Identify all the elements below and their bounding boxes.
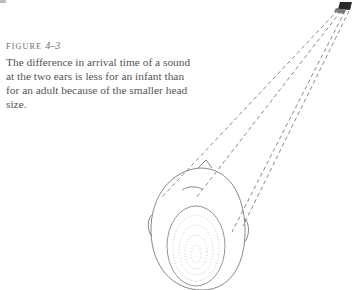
hair-outline	[167, 206, 225, 286]
path-right-ear-outer	[232, 11, 345, 232]
path-right-ear-inner	[243, 11, 349, 226]
path-left-ear-outer	[162, 10, 338, 197]
sound-path-lines	[162, 10, 349, 232]
sound-source-icon	[334, 2, 352, 14]
path-left-ear-inner	[196, 11, 341, 198]
head-sound-illustration	[0, 0, 356, 290]
brow-line	[182, 187, 202, 190]
hair-texture	[173, 215, 219, 281]
nose-outline	[198, 160, 212, 168]
infant-head-drawing	[148, 160, 248, 290]
head-outline	[151, 168, 245, 290]
